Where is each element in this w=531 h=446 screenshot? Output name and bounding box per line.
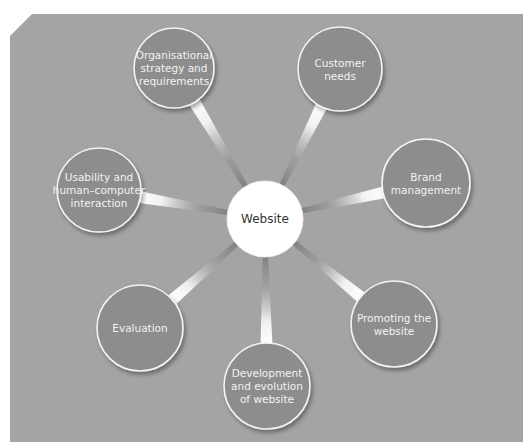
node-development[interactable]: Developmentand evolutionof website	[224, 343, 310, 429]
node-promoting[interactable]: Promoting thewebsite	[351, 281, 437, 367]
node-label-line: Evaluation	[112, 322, 167, 334]
node-label-line: needs	[324, 70, 356, 82]
node-label-line: of website	[240, 393, 294, 405]
node-label-line: Usability and	[65, 171, 133, 183]
node-label-line: Development	[232, 367, 303, 379]
node-label-line: and evolution	[231, 380, 303, 392]
node-label-line: management	[391, 184, 461, 196]
node-label-line: human–computer	[53, 184, 146, 196]
node-brand[interactable]: Brandmanagement	[382, 139, 470, 227]
node-label-line: Customer	[314, 57, 366, 69]
center-label: Website	[241, 212, 289, 226]
node-org[interactable]: Organisationalstrategy andrequirements	[134, 28, 214, 108]
node-label-line: Promoting the	[357, 312, 431, 324]
node-customer[interactable]: Customerneeds	[298, 27, 382, 111]
center-node[interactable]: Website	[227, 181, 303, 257]
node-evaluation[interactable]: Evaluation	[97, 285, 183, 371]
diagram-canvas: Organisationalstrategy andrequirementsCu…	[0, 0, 531, 446]
node-label-line: Brand	[410, 171, 441, 183]
node-label-line: strategy and	[141, 62, 208, 74]
node-label-line: requirements	[139, 75, 209, 87]
node-label-line: Organisational	[136, 49, 212, 61]
node-label-line: website	[374, 325, 415, 337]
node-label-line: interaction	[71, 197, 128, 209]
